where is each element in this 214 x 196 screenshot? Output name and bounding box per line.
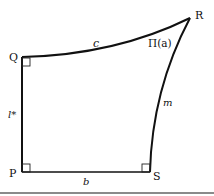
vertex-label-s: S [153,170,161,183]
right-angle-marker-s [142,164,150,172]
edge-label-l-star: l* [8,109,16,120]
right-angle-marker-q [22,58,30,66]
vertex-label-p: P [9,167,17,180]
angle-label-pi-a: Π(a) [148,37,172,49]
vertex-label-r: R [195,9,204,22]
lambert-quadrilateral-diagram: Q P S R c l* b m Π(a) [0,0,214,196]
edge-label-b: b [83,176,89,187]
edge-label-c: c [93,37,99,50]
bottom-rule [0,192,214,194]
right-angle-marker-p [22,164,30,172]
vertex-label-q: Q [9,51,18,64]
edge-label-m: m [163,97,172,108]
